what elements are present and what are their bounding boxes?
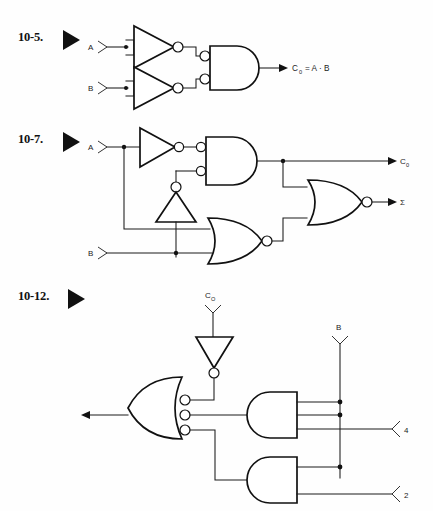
- problem-10-12-number: 10-12.: [18, 289, 49, 303]
- input-connector-b-icon-10-7: [98, 247, 107, 259]
- or-input-bubble-top-icon-10-12: [180, 395, 190, 405]
- junction-dot-b-upper2: [338, 413, 343, 418]
- problem-10-7-number: 10-7.: [18, 132, 43, 146]
- junction-dot-b-upper1: [338, 400, 343, 405]
- input-label-a-10-7: A: [88, 143, 94, 152]
- inverter-b-body: [134, 67, 174, 109]
- wire-inverter-a-to-and: [183, 47, 200, 56]
- input-label-a: A: [88, 43, 94, 52]
- problem-10-12-marker-icon: [68, 289, 85, 309]
- wire-inverter-b-to-and: [183, 79, 200, 88]
- input-label-b-10-7: B: [88, 249, 93, 258]
- junction-dot-a: [124, 45, 128, 49]
- output-arrow-icon-10-5: [279, 64, 288, 72]
- inverter-b-bubble-icon: [173, 83, 183, 93]
- nor-gate-output-bubble-icon: [362, 197, 372, 207]
- output-label-co-subscript-10-7: 0: [406, 162, 409, 168]
- junction-dot-b: [124, 86, 128, 90]
- and-input-bubble-bottom-icon: [200, 74, 210, 84]
- problem-10-7-group: 10-7. A: [18, 128, 409, 264]
- worksheet-page: 10-5. A B: [0, 0, 433, 511]
- or-input-bubble-bot-icon-10-12: [180, 425, 190, 435]
- output-equation-10-5: = A · B: [305, 64, 330, 73]
- junction-dot-b-10-7: [174, 251, 178, 255]
- problem-10-5-marker-icon: [63, 30, 80, 50]
- inverter-top-body-10-12: [196, 337, 233, 368]
- inverter-a-bubble-icon-10-7: [174, 142, 183, 151]
- junction-dot-b-lower1: [338, 465, 343, 470]
- input-label-4: 4: [404, 426, 409, 435]
- and-gate-body-10-7: [206, 137, 257, 185]
- output-arrow-icon-co-10-7: [388, 157, 397, 165]
- wire-co-branch-to-nor: [283, 161, 307, 187]
- nand-gate-upper-body-10-12: [247, 392, 297, 438]
- and-input-bubble-top-icon: [200, 51, 210, 61]
- input-connector-a-icon: [98, 41, 107, 53]
- problem-10-5-number: 10-5.: [18, 30, 43, 44]
- input-connector-co-icon-10-12: [205, 305, 221, 313]
- and-gate-body-10-5: [210, 46, 259, 90]
- nor-gate-lower-body: [208, 218, 262, 264]
- output-arrow-icon-sigma: [388, 198, 397, 206]
- input-label-co-subscript-10-12: O: [211, 296, 216, 302]
- output-label-c0: C: [292, 64, 298, 73]
- input-label-b: B: [88, 84, 93, 93]
- nand-gate-lower-body-10-12: [247, 457, 297, 503]
- input-connector-2-icon-10-12: [392, 486, 400, 502]
- inverter-a-body: [134, 26, 174, 68]
- input-connector-b-icon: [98, 82, 107, 94]
- wire-inv-to-or-top-input: [190, 378, 214, 400]
- inverter-vertical-body: [156, 192, 196, 222]
- input-label-b-10-12: B: [336, 323, 341, 332]
- wire-nor-lower-to-nor-out: [272, 218, 307, 241]
- input-connector-4-icon-10-12: [392, 421, 400, 437]
- output-label-c0-subscript: 0: [299, 69, 302, 75]
- problem-10-7-marker-icon: [63, 132, 80, 152]
- inverter-a-body-10-7: [140, 128, 175, 167]
- problem-10-12-group: 10-12. C O B: [18, 289, 409, 503]
- and-input-bubble-bottom-icon-10-7: [196, 166, 205, 175]
- nor-gate-output-body: [308, 180, 362, 225]
- problem-10-5-group: 10-5. A B: [18, 26, 330, 109]
- or-input-bubble-mid-icon-10-12: [180, 410, 190, 420]
- and-input-bubble-top-icon-10-7: [196, 142, 205, 151]
- inverter-a-bubble-icon: [173, 42, 183, 52]
- circuit-diagram-canvas: 10-5. A B: [0, 0, 433, 511]
- input-connector-b-icon-10-12: [332, 336, 348, 344]
- input-label-2: 2: [404, 491, 409, 500]
- or-gate-output-body-10-12: [128, 377, 182, 439]
- output-label-sigma: Σ: [400, 198, 405, 207]
- inverter-top-bubble-icon-10-12: [209, 368, 219, 378]
- output-arrow-icon-10-12: [81, 411, 90, 419]
- nor-gate-lower-bubble-icon: [262, 236, 272, 246]
- input-connector-a-icon-10-7: [98, 141, 107, 153]
